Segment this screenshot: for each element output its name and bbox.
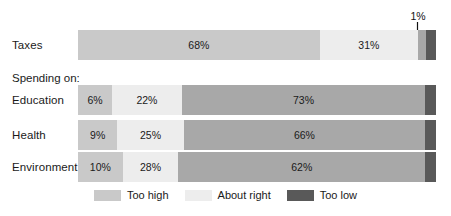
legend-item-about-right[interactable]: About right [185, 189, 271, 201]
chart-row-taxes: Taxes 68% 31% [0, 30, 451, 60]
chart-row-environment: Environment 10% 28% 62% [0, 152, 451, 182]
legend-item-too-low[interactable]: Too low [287, 189, 357, 201]
legend-item-too-high[interactable]: Too high [94, 189, 169, 201]
legend-label: About right [218, 189, 271, 201]
row-label-taxes: Taxes [12, 39, 43, 51]
legend-label: Too high [127, 189, 169, 201]
segment-end-cap[interactable] [426, 30, 436, 60]
section-heading-spending: Spending on: [12, 72, 80, 84]
stacked-bar-taxes: 68% 31% [78, 30, 436, 60]
stacked-bar-education: 6% 22% 73% [78, 85, 436, 115]
chart-legend: Too high About right Too low [0, 189, 451, 201]
legend-swatch-icon [287, 190, 314, 201]
legend-swatch-icon [94, 190, 121, 201]
segment-too-low[interactable]: 73% [182, 85, 425, 115]
segment-about-right[interactable]: 31% [320, 30, 418, 60]
segment-too-high[interactable]: 9% [78, 120, 117, 150]
chart-row-education: Education 6% 22% 73% [0, 85, 451, 115]
segment-too-low[interactable]: 62% [178, 152, 425, 182]
segment-too-low[interactable] [418, 30, 426, 60]
legend-label: Too low [320, 189, 357, 201]
stacked-bar-environment: 10% 28% 62% [78, 152, 436, 182]
legend-swatch-icon [185, 190, 212, 201]
segment-end-cap[interactable] [425, 120, 436, 150]
segment-end-cap[interactable] [425, 152, 436, 182]
segment-about-right[interactable]: 28% [123, 152, 178, 182]
segment-too-high[interactable]: 68% [78, 30, 320, 60]
segment-too-high[interactable]: 10% [78, 152, 123, 182]
segment-about-right[interactable]: 25% [117, 120, 183, 150]
segment-too-high[interactable]: 6% [78, 85, 112, 115]
segment-end-cap[interactable] [425, 85, 436, 115]
annotation-1-percent-label: 1% [404, 10, 432, 22]
segment-about-right[interactable]: 22% [112, 85, 182, 115]
stacked-bar-health: 9% 25% 66% [78, 120, 436, 150]
chart-row-health: Health 9% 25% 66% [0, 120, 451, 150]
row-label-environment: Environment [12, 161, 78, 173]
row-label-health: Health [12, 129, 46, 141]
chart-root: 1% Taxes 68% 31% Spending on: Education … [0, 0, 451, 216]
row-label-education: Education [12, 94, 64, 106]
segment-too-low[interactable]: 66% [184, 120, 426, 150]
